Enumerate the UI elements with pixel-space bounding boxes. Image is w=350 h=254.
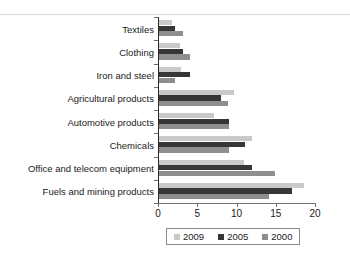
x-axis-tick-label: 10 (231, 208, 242, 220)
y-axis-tick (154, 110, 158, 111)
plot-area: TextilesClothingIron and steelAgricultur… (158, 17, 315, 203)
chart-legend: 200920052000 (166, 228, 300, 245)
bar-2009 (159, 136, 252, 141)
bar-2000 (159, 78, 175, 83)
legend-label: 2000 (271, 232, 292, 242)
category-label: Iron and steel (96, 70, 154, 81)
bar-2009 (159, 20, 172, 25)
category-label: Chemicals (110, 139, 154, 150)
y-axis-tick (154, 40, 158, 41)
bar-2000 (159, 101, 228, 106)
x-axis-tick-label: 20 (309, 208, 320, 220)
bar-2005 (159, 72, 190, 77)
legend-label: 2005 (227, 232, 248, 242)
x-axis-tick (158, 203, 159, 207)
x-axis-tick (276, 203, 277, 207)
bar-2005 (159, 165, 252, 170)
y-axis-tick (154, 157, 158, 158)
y-axis-tick (154, 17, 158, 18)
legend-swatch-icon (218, 234, 224, 240)
category-group: Office and telecom equipment (158, 157, 315, 180)
bar-2000 (159, 171, 275, 176)
legend-item: 2000 (262, 232, 292, 242)
category-label: Office and telecom equipment (28, 163, 154, 174)
legend-item: 2005 (218, 232, 248, 242)
y-axis-tick (154, 180, 158, 181)
scan-artifact-line (0, 14, 350, 15)
y-axis-tick (154, 64, 158, 65)
category-label: Textiles (122, 23, 154, 34)
category-group: Clothing (158, 40, 315, 63)
bar-2005 (159, 26, 175, 31)
y-axis-tick (154, 87, 158, 88)
bar-2000 (159, 147, 229, 152)
category-group: Textiles (158, 17, 315, 40)
bar-2005 (159, 95, 221, 100)
bar-2000 (159, 54, 190, 59)
bar-2005 (159, 119, 229, 124)
bar-chart: TextilesClothingIron and steelAgricultur… (0, 0, 350, 254)
category-group: Fuels and mining products (158, 180, 315, 203)
bar-2005 (159, 142, 245, 147)
category-label: Automotive products (67, 116, 154, 127)
y-axis-tick (154, 133, 158, 134)
bar-2009 (159, 183, 304, 188)
x-axis-tick-label: 0 (155, 208, 161, 220)
category-label: Clothing (119, 46, 154, 57)
bar-2009 (159, 90, 234, 95)
category-group: Chemicals (158, 133, 315, 156)
category-label: Agricultural products (67, 93, 154, 104)
bar-2009 (159, 43, 180, 48)
bar-2009 (159, 160, 244, 165)
x-axis-tick (315, 203, 316, 207)
legend-item: 2009 (174, 232, 204, 242)
bar-2000 (159, 31, 183, 36)
bar-2000 (159, 194, 269, 199)
category-group: Automotive products (158, 110, 315, 133)
bar-2005 (159, 49, 183, 54)
bar-2009 (159, 67, 181, 72)
legend-label: 2009 (183, 232, 204, 242)
legend-swatch-icon (262, 234, 268, 240)
bar-2009 (159, 113, 214, 118)
category-group: Iron and steel (158, 64, 315, 87)
y-axis-tick (154, 203, 158, 204)
bar-2000 (159, 124, 229, 129)
x-axis-tick (197, 203, 198, 207)
legend-swatch-icon (174, 234, 180, 240)
x-axis-tick-label: 15 (270, 208, 281, 220)
category-label: Fuels and mining products (43, 186, 154, 197)
category-group: Agricultural products (158, 87, 315, 110)
bar-2005 (159, 188, 292, 193)
x-axis-tick-label: 5 (194, 208, 200, 220)
x-axis-tick (237, 203, 238, 207)
